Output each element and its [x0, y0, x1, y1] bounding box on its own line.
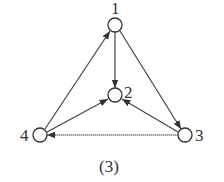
edge-4-to-1	[45, 31, 110, 129]
node-2-label: 2	[124, 84, 133, 101]
node-3	[178, 128, 192, 142]
node-4-label: 4	[20, 127, 29, 144]
nodes	[33, 18, 192, 142]
node-1	[108, 18, 122, 32]
node-1-label: 1	[111, 0, 120, 17]
node-4	[33, 128, 47, 142]
edge-4-to-2	[47, 99, 108, 132]
edge-1-to-3	[120, 31, 181, 129]
figure-caption: (3)	[99, 158, 119, 175]
edges	[45, 31, 181, 135]
edge-3-to-2	[122, 99, 178, 132]
node-2	[108, 88, 122, 102]
graph-canvas	[0, 0, 224, 182]
node-3-label: 3	[195, 127, 204, 144]
